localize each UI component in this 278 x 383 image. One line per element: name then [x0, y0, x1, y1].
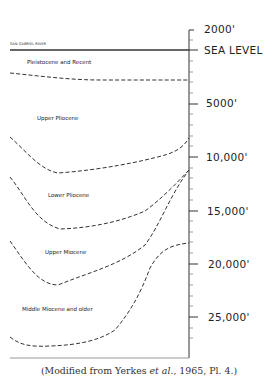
caption-text: (Modified from Yerkes — [41, 365, 150, 376]
axis-label-sea-level: SEA LEVEL — [204, 44, 263, 56]
river-label: SAN GABRIEL RIVER — [10, 42, 47, 46]
horizon-upper-miocene-base — [10, 170, 189, 285]
axis-label-5000: 5000' — [206, 97, 237, 109]
unit-label-upper-miocene: Upper Miocene — [45, 249, 87, 256]
unit-label-lower-pliocene: Lower Pliocene — [48, 192, 90, 198]
cross-section-diagram: 2000' SEA LEVEL 5000' 10,000' 15,000' 20… — [0, 0, 278, 383]
unit-label-upper-pliocene: Upper Pliocene — [37, 115, 79, 122]
caption-italic: et al. — [150, 365, 174, 376]
axis-label-2000: 2000' — [204, 23, 235, 35]
minor-ticks — [189, 40, 193, 338]
horizon-upper-pliocene-base — [10, 137, 189, 173]
figure-caption: (Modified from Yerkes et al., 1965, Pl. … — [0, 365, 278, 376]
axis-label-25000: 25,000' — [208, 311, 250, 323]
horizon-middle-miocene-top — [10, 243, 189, 346]
axis-label-10000: 10,000' — [206, 151, 248, 163]
caption-text-end: , 1965, Pl. 4.) — [173, 365, 237, 376]
unit-label-pleistocene: Pleistocene and Recent — [27, 59, 92, 65]
axis-label-20000: 20,000' — [208, 258, 250, 270]
horizon-pleistocene-base — [10, 73, 189, 80]
axis-label-15000: 15,000' — [207, 205, 249, 217]
horizon-lower-pliocene-base — [10, 170, 189, 229]
unit-label-middle-miocene: Middle Miocene and older — [22, 306, 93, 312]
